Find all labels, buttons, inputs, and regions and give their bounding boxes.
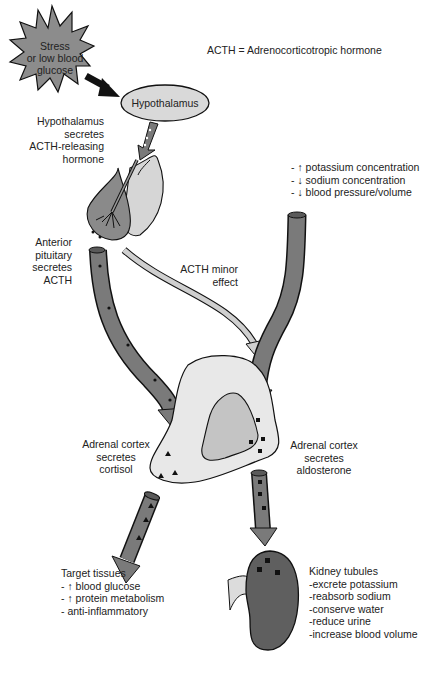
trigger-line: - ↓ blood pressure/volume — [291, 186, 419, 199]
label-line: ACTH — [10, 274, 72, 287]
label-line: cortisol — [74, 463, 158, 476]
kidney — [228, 551, 298, 650]
label-line: -reabsorb sodium — [309, 590, 418, 603]
label-line: Hypothalamus — [10, 115, 104, 128]
label-line: -conserve water — [309, 603, 418, 616]
adrenal-aldosterone-label: Adrenal cortex secretes aldosterone — [282, 439, 366, 477]
acth-definition: ACTH = Adrenocorticotropic hormone — [207, 44, 382, 57]
acth-tube-arrow — [89, 247, 186, 432]
label-line: -increase blood volume — [309, 628, 418, 641]
anterior-pituitary-label: Anterior pituitary secretes ACTH — [10, 236, 72, 286]
adrenal-cortisol-label: Adrenal cortex secretes cortisol — [74, 438, 158, 476]
label-line: secretes — [74, 451, 158, 464]
label-line: Kidney tubules — [309, 565, 418, 578]
stimulus-label: Stress or low blood glucose — [24, 40, 86, 76]
stimulus-line: glucose — [24, 64, 86, 76]
kidney-tubules-label: Kidney tubules -excrete potassium -reabs… — [309, 565, 418, 640]
label-line: ACTH-releasing — [10, 140, 104, 153]
hypothalamus-label: Hypothalamus — [121, 97, 209, 110]
label-line: Adrenal cortex — [74, 438, 158, 451]
aldosterone-arrow — [250, 470, 277, 546]
target-tissues-label: Target tissues - ↑ blood glucose - ↑ pro… — [61, 567, 164, 617]
trigger-line: - ↓ sodium concentration — [291, 174, 419, 187]
crh-arrow — [138, 122, 158, 160]
aldosterone-triggers-label: - ↑ potassium concentration - ↓ sodium c… — [291, 161, 419, 199]
label-line: -excrete potassium — [309, 578, 418, 591]
label-line: hormone — [10, 153, 104, 166]
stress-to-hypothalamus-arrow — [86, 76, 120, 97]
label-line: pituitary — [10, 249, 72, 262]
acth-minor-effect-label: ACTH minor effect — [180, 263, 238, 288]
trigger-line: - ↑ potassium concentration — [291, 161, 419, 174]
label-line: secretes — [282, 452, 366, 465]
label-line: Target tissues — [61, 567, 164, 580]
label-line: - ↑ blood glucose — [61, 580, 164, 593]
stimulus-line: Stress — [24, 40, 86, 52]
label-line: Adrenal cortex — [282, 439, 366, 452]
label-line: secretes — [10, 261, 72, 274]
label-line: secretes — [10, 128, 104, 141]
label-line: aldosterone — [282, 464, 366, 477]
stimulus-line: or low blood — [24, 52, 86, 64]
hypothalamus-secretes-label: Hypothalamus secretes ACTH-releasing hor… — [10, 115, 104, 165]
label-line: - ↑ protein metabolism — [61, 592, 164, 605]
label-line: ACTH minor — [180, 263, 238, 276]
pituitary-gland — [87, 156, 163, 240]
label-line: -reduce urine — [309, 615, 418, 628]
label-line: Anterior — [10, 236, 72, 249]
label-line: effect — [180, 276, 238, 289]
label-line: - anti-inflammatory — [61, 605, 164, 618]
